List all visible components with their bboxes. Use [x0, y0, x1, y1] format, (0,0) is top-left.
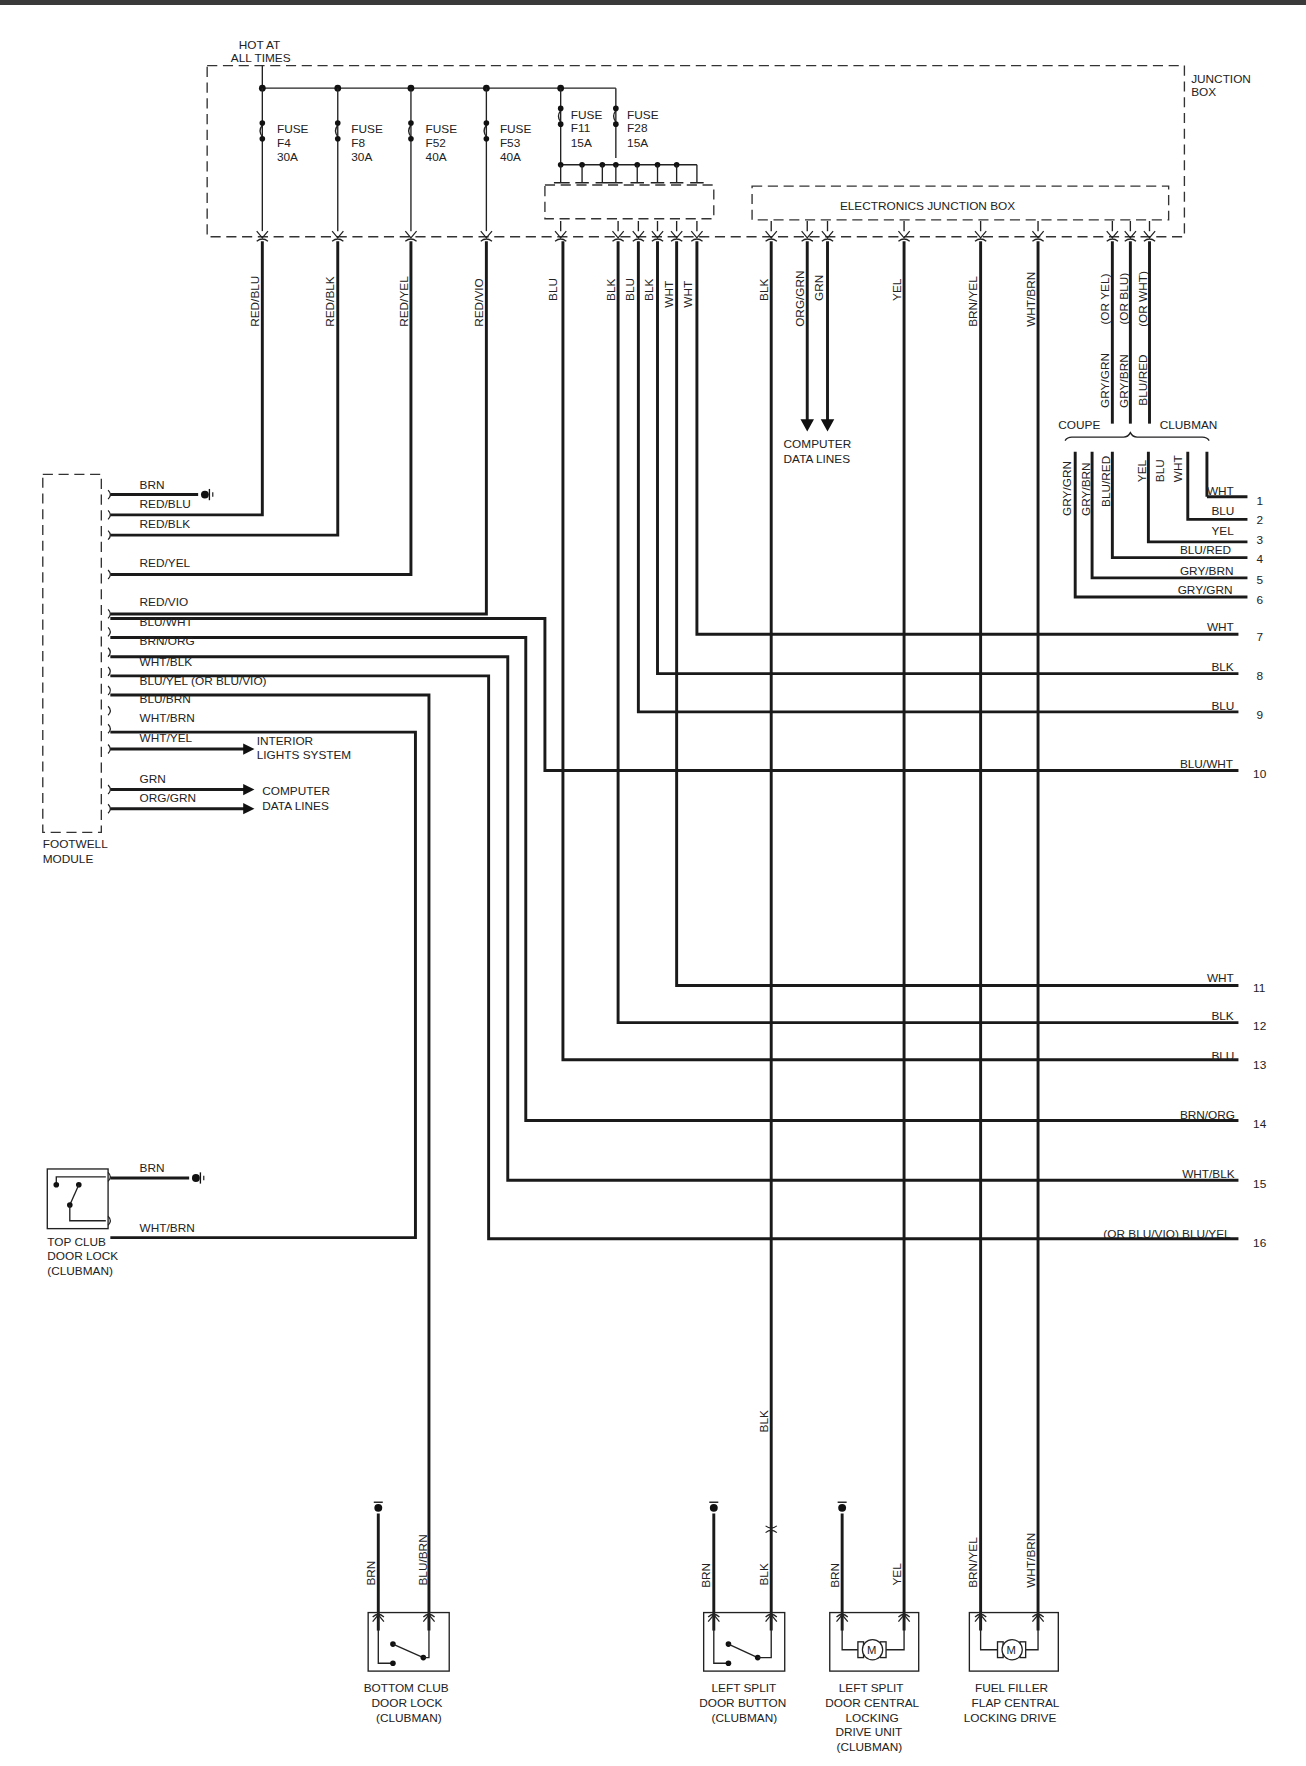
- svg-text:TOP CLUB: TOP CLUB: [47, 1235, 106, 1249]
- svg-text:BRN: BRN: [828, 1563, 842, 1588]
- svg-text:RED/BLU: RED/BLU: [140, 497, 191, 511]
- svg-text:15A: 15A: [571, 136, 592, 150]
- svg-text:RED/BLK: RED/BLK: [140, 517, 191, 531]
- svg-text:WHT/YEL: WHT/YEL: [140, 731, 193, 745]
- svg-text:F11: F11: [571, 121, 590, 135]
- svg-text:ORG/GRN: ORG/GRN: [793, 270, 807, 326]
- svg-text:14: 14: [1253, 1117, 1267, 1131]
- svg-text:FUSE: FUSE: [627, 108, 659, 122]
- svg-text:DOOR LOCK: DOOR LOCK: [372, 1696, 443, 1710]
- svg-text:(CLUBMAN): (CLUBMAN): [712, 1711, 778, 1725]
- svg-text:BLU/BRN: BLU/BRN: [416, 1534, 430, 1585]
- svg-text:ORG/GRN: ORG/GRN: [140, 791, 196, 805]
- svg-text:15: 15: [1253, 1177, 1267, 1191]
- ground-icon: [374, 1502, 383, 1512]
- component-connectors: [373, 1614, 1044, 1621]
- svg-text:RED/VIO: RED/VIO: [472, 278, 486, 327]
- svg-text:BRN: BRN: [140, 478, 165, 492]
- svg-text:GRN: GRN: [812, 275, 826, 301]
- fuse-f4: FUSEF430A: [260, 88, 309, 231]
- fuse-f11: FUSEF1115A: [558, 88, 603, 165]
- svg-text:5: 5: [1256, 573, 1263, 587]
- svg-text:COMPUTER: COMPUTER: [262, 784, 330, 798]
- fuse-distribution-block: [545, 162, 714, 231]
- svg-text:BRN: BRN: [699, 1563, 713, 1588]
- svg-text:8: 8: [1256, 669, 1263, 683]
- svg-text:BRN: BRN: [140, 1161, 165, 1175]
- svg-text:15A: 15A: [627, 136, 648, 150]
- svg-text:2: 2: [1256, 513, 1263, 527]
- hot-at-label-1: HOT AT: [239, 38, 281, 52]
- ground-icon: [838, 1502, 847, 1512]
- svg-text:40A: 40A: [426, 150, 447, 164]
- svg-text:RED/YEL: RED/YEL: [140, 556, 191, 570]
- svg-text:FUSE: FUSE: [351, 122, 383, 136]
- svg-text:DRIVE UNIT: DRIVE UNIT: [835, 1725, 902, 1739]
- svg-text:FLAP CENTRAL: FLAP CENTRAL: [972, 1696, 1060, 1710]
- svg-text:BOTTOM CLUB: BOTTOM CLUB: [364, 1681, 449, 1695]
- wiring-diagram: HOT AT ALL TIMES JUNCTION BOX FUSEF430A …: [0, 0, 1306, 1766]
- svg-text:1: 1: [1256, 494, 1263, 508]
- svg-text:(CLUBMAN): (CLUBMAN): [837, 1740, 903, 1754]
- footwell-module: FOOTWELL MODULE BRN RED/BLU RED/BLK RED/…: [43, 474, 1239, 1630]
- svg-text:WHT: WHT: [1207, 484, 1234, 498]
- svg-text:LIGHTS SYSTEM: LIGHTS SYSTEM: [257, 748, 352, 762]
- svg-text:FUEL FILLER: FUEL FILLER: [975, 1681, 1048, 1695]
- svg-text:30A: 30A: [277, 150, 298, 164]
- electronics-junction-box: ELECTRONICS JUNCTION BOX: [752, 186, 1169, 231]
- svg-text:WHT: WHT: [662, 281, 676, 308]
- svg-text:INTERIOR: INTERIOR: [257, 734, 313, 748]
- blk-mid-label: BLK: [757, 1410, 771, 1432]
- svg-text:WHT/BRN: WHT/BRN: [140, 1221, 195, 1235]
- svg-text:6: 6: [1256, 593, 1263, 607]
- fuse-f8: FUSEF830A: [335, 88, 383, 231]
- svg-text:BLU: BLU: [1211, 699, 1234, 713]
- svg-text:10: 10: [1253, 767, 1267, 781]
- svg-text:BLU: BLU: [1153, 459, 1167, 482]
- svg-text:DOOR CENTRAL: DOOR CENTRAL: [825, 1696, 919, 1710]
- svg-text:4: 4: [1256, 552, 1263, 566]
- vertical-wire-labels: RED/BLU RED/BLK RED/YEL RED/VIO BLU BLK …: [248, 270, 1150, 408]
- svg-text:WHT/BRN: WHT/BRN: [140, 711, 195, 725]
- svg-text:WHT: WHT: [1171, 455, 1185, 482]
- svg-text:RED/BLU: RED/BLU: [248, 276, 262, 327]
- svg-text:FUSE: FUSE: [277, 122, 309, 136]
- svg-text:BLU/BRN: BLU/BRN: [140, 692, 191, 706]
- svg-text:WHT: WHT: [681, 281, 695, 308]
- svg-text:BLU: BLU: [546, 278, 560, 301]
- svg-text:COMPUTER: COMPUTER: [784, 437, 852, 451]
- svg-text:F28: F28: [627, 121, 648, 135]
- svg-text:30A: 30A: [351, 150, 372, 164]
- svg-text:12: 12: [1253, 1019, 1266, 1033]
- svg-text:9: 9: [1256, 708, 1263, 722]
- svg-text:LOCKING DRIVE: LOCKING DRIVE: [964, 1711, 1057, 1725]
- left-split-door-button: BRN BLK LEFT SPLIT DOOR BUTTON (CLUBMAN): [699, 1502, 786, 1725]
- svg-text:40A: 40A: [500, 150, 521, 164]
- svg-text:BLU: BLU: [1211, 1049, 1234, 1063]
- svg-text:GRY/BRN: GRY/BRN: [1180, 564, 1234, 578]
- svg-text:BRN/YEL: BRN/YEL: [966, 1537, 980, 1588]
- svg-text:GRY/GRN: GRY/GRN: [1098, 353, 1112, 408]
- svg-text:BLK: BLK: [757, 278, 771, 300]
- svg-text:BLU/RED: BLU/RED: [1180, 543, 1231, 557]
- svg-text:BLU/YEL (OR BLU/VIO): BLU/YEL (OR BLU/VIO): [140, 674, 267, 688]
- svg-text:BLK: BLK: [757, 1563, 771, 1585]
- svg-text:RED/BLK: RED/BLK: [323, 276, 337, 327]
- svg-text:BLK: BLK: [642, 278, 656, 300]
- motor-icon: M: [862, 1640, 882, 1660]
- svg-text:CLUBMAN: CLUBMAN: [1160, 418, 1218, 432]
- ground-icon: [201, 489, 213, 500]
- svg-text:BLU: BLU: [1211, 504, 1234, 518]
- svg-text:RED/VIO: RED/VIO: [140, 595, 189, 609]
- svg-text:16: 16: [1253, 1236, 1267, 1250]
- svg-text:(OR YEL): (OR YEL): [1098, 274, 1112, 325]
- fuse-f53: FUSEF5340A: [484, 88, 532, 231]
- ground-icon: [709, 1502, 718, 1512]
- svg-text:RED/YEL: RED/YEL: [397, 276, 411, 327]
- svg-text:BRN/ORG: BRN/ORG: [140, 634, 195, 648]
- svg-text:BRN: BRN: [364, 1561, 378, 1586]
- svg-text:DOOR BUTTON: DOOR BUTTON: [699, 1696, 786, 1710]
- svg-text:WHT/BRN: WHT/BRN: [1024, 1533, 1038, 1588]
- svg-text:BRN/YEL: BRN/YEL: [966, 276, 980, 327]
- bottom-club-door-lock: BRN BLU/BRN BLU/BRN BOTTOM CLUB DOOR LOC…: [364, 1502, 450, 1725]
